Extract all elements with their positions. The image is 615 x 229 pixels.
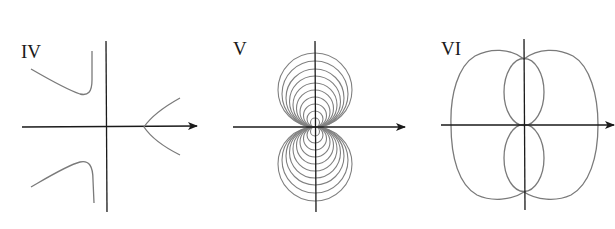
figure-canvas: IV V bbox=[0, 0, 615, 229]
panel-vi: VI bbox=[441, 38, 614, 210]
curve-branch-lower-left bbox=[31, 162, 94, 203]
panel-iv: IV bbox=[21, 41, 197, 212]
panel-v: V bbox=[233, 38, 405, 212]
panel-label-v: V bbox=[233, 38, 247, 59]
panel-label-iv: IV bbox=[21, 41, 41, 62]
x-axis bbox=[22, 126, 197, 127]
panel-label-vi: VI bbox=[441, 38, 461, 59]
